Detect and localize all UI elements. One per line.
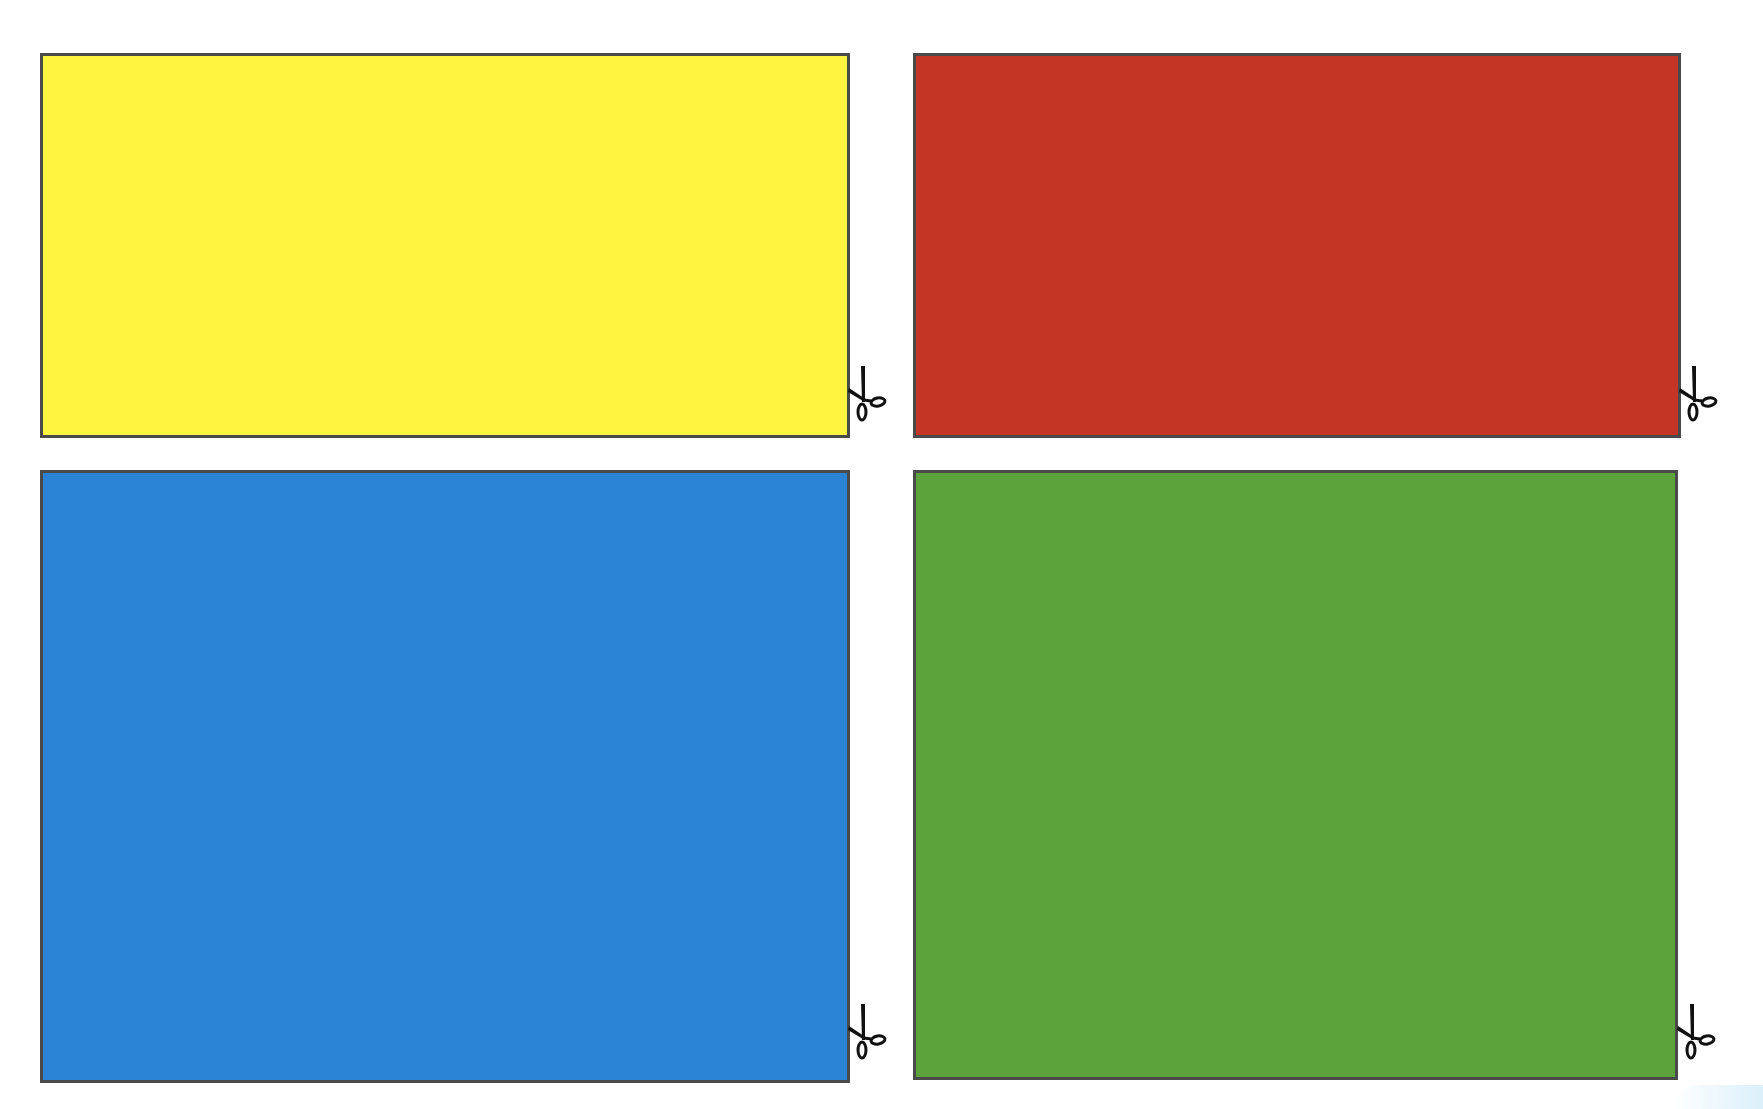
- blue-card: [40, 470, 850, 1083]
- scissors-icon: [1679, 364, 1719, 424]
- green-card: [913, 470, 1678, 1080]
- scissors-icon: [848, 1002, 888, 1062]
- red-card: [913, 53, 1681, 438]
- corner-glow: [1673, 1085, 1763, 1109]
- scissors-icon: [848, 364, 888, 424]
- yellow-card: [40, 53, 850, 438]
- scissors-icon: [1677, 1002, 1717, 1062]
